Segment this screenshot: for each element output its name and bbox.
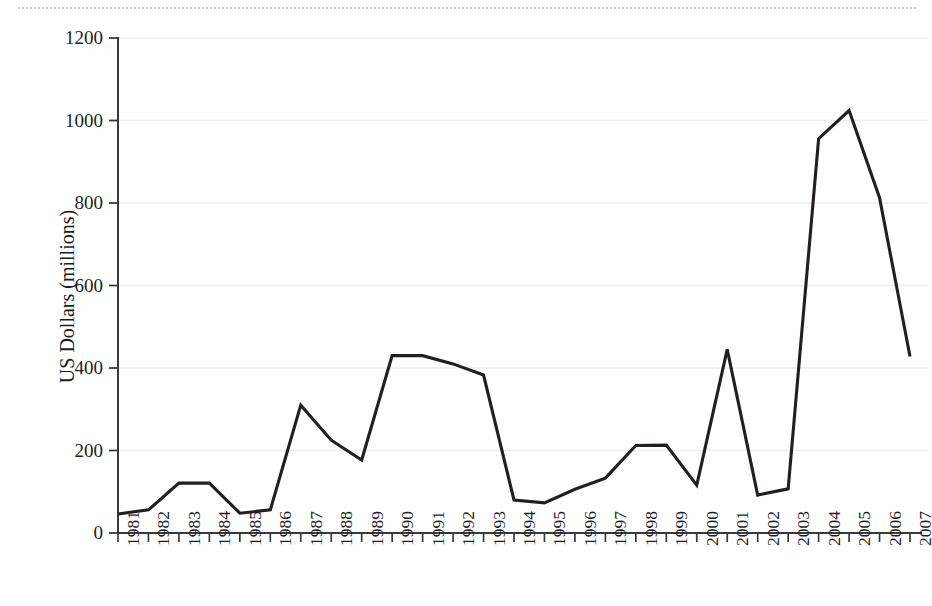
x-tick-label: 1997 [612,511,630,546]
x-tick-label: 1995 [551,511,569,546]
x-tick-label: 1985 [247,511,265,546]
x-tick-label: 1989 [369,511,387,546]
x-tick-label: 1991 [430,511,448,546]
x-tick-label: 1996 [582,511,600,546]
x-tick-label: 1992 [460,511,478,546]
x-tick-label: 1994 [521,511,539,546]
data-series-line [118,111,910,514]
y-tick-marks [109,38,118,533]
x-tick-label: 2006 [887,511,905,546]
x-tick-label: 1986 [277,511,295,546]
x-tick-label: 1998 [643,511,661,546]
x-tick-label: 2001 [734,511,752,546]
y-tick-label: 200 [33,441,103,460]
x-tick-label: 2004 [826,511,844,546]
x-tick-label: 2002 [765,511,783,546]
x-tick-label: 2003 [795,511,813,546]
x-tick-label: 1988 [338,511,356,546]
y-tick-label: 600 [33,276,103,295]
x-tick-label: 1987 [308,511,326,546]
y-tick-label: 0 [33,523,103,542]
x-tick-label: 1983 [186,511,204,546]
y-tick-label: 800 [33,193,103,212]
x-tick-label: 2000 [704,511,722,546]
y-tick-label: 400 [33,358,103,377]
x-tick-label: 1993 [491,511,509,546]
x-tick-label: 2005 [856,511,874,546]
x-tick-label: 1982 [155,511,173,546]
x-tick-label: 2007 [917,511,932,546]
x-tick-label: 1990 [399,511,417,546]
chart-figure: US Dollars (millions) 020040060080010001… [0,0,932,606]
x-tick-label: 1984 [216,511,234,546]
x-tick-label: 1981 [125,511,143,546]
x-tick-label: 1999 [673,511,691,546]
x-tick-marks [118,533,910,542]
y-tick-label: 1000 [33,111,103,130]
y-tick-label: 1200 [33,28,103,47]
